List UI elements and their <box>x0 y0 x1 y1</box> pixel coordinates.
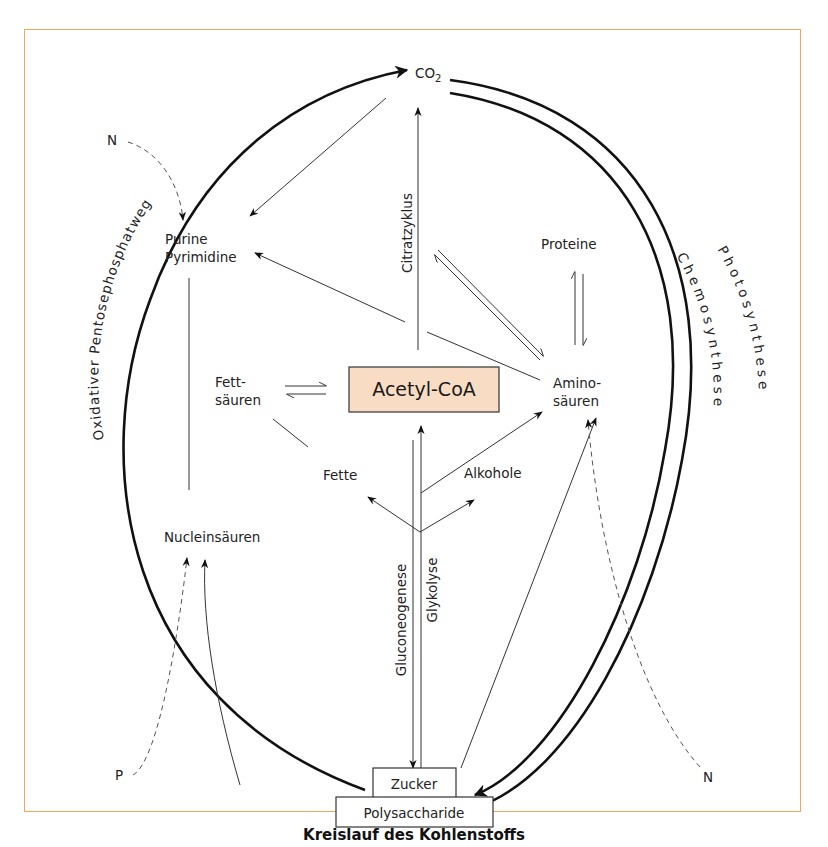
zucker-label: Zucker <box>391 776 438 792</box>
n-bottom-label: N <box>703 769 713 785</box>
figure-title: Kreislauf des Kohlenstoffs <box>303 826 525 844</box>
amino-to-purine-arrow <box>255 253 405 322</box>
co2-label: CO2 <box>415 65 441 84</box>
to-alkohole-arrow <box>420 500 474 532</box>
gluconeogenese-label: Gluconeogenese <box>393 564 409 677</box>
fettsaeuren-label-1: Fett- <box>215 374 246 390</box>
photosynthesis-arc <box>450 80 691 808</box>
chemosynthese-label: Chemosynthese <box>674 249 727 410</box>
zucker-to-nuclein-arrow <box>205 560 240 785</box>
fette-label: Fette <box>323 467 357 483</box>
pyrimidine-label: Pyrimidine <box>165 249 237 265</box>
p-label: P <box>115 767 123 783</box>
pentose-arc <box>124 70 407 790</box>
acetyl-coa-label: Acetyl-CoA <box>372 378 476 400</box>
purine-label: Purine <box>165 231 208 247</box>
chemosynthesis-arc <box>450 93 673 795</box>
aminosaeuren-label-1: Amino- <box>553 375 601 391</box>
co2-to-purine-arrow <box>250 98 386 216</box>
to-fette-arrow <box>368 497 420 532</box>
fetts-fette-link <box>273 419 308 447</box>
polysaccharide-label: Polysaccharide <box>364 805 465 821</box>
p-to-nuclein-dashed-arrow <box>133 558 187 775</box>
nucleinsaeuren-label: Nucleinsäuren <box>164 529 260 545</box>
alkohole-label: Alkohole <box>464 465 521 481</box>
glykolyse-label: Glykolyse <box>424 558 440 623</box>
acetyl-to-amino-half-arrow <box>438 250 543 356</box>
n-top-label: N <box>107 132 117 148</box>
amino-to-acetyl-half-arrow <box>435 255 540 360</box>
fettsaeuren-label-2: säuren <box>215 392 261 408</box>
carbon-cycle-diagram: CO2 Citratzyklus Purine Pyrimidine N Pro… <box>0 0 828 847</box>
aminosaeuren-label-2: säuren <box>553 393 599 409</box>
citratzyklus-label: Citratzyklus <box>399 193 415 273</box>
proteine-label: Proteine <box>541 236 597 252</box>
